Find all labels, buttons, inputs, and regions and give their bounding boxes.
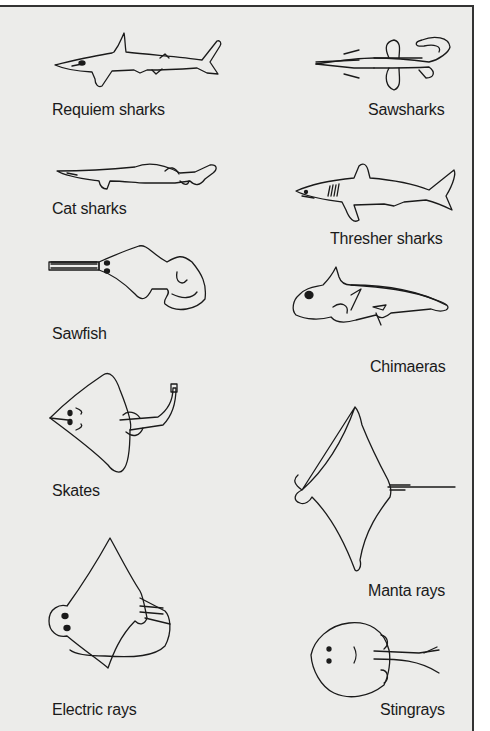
sawfish-illustration — [47, 244, 217, 319]
sawshark-illustration — [314, 32, 459, 94]
label-thresher-sharks: Thresher sharks — [330, 230, 443, 248]
label-sawfish: Sawfish — [52, 325, 107, 343]
skate-illustration — [48, 370, 183, 475]
chimaera-illustration — [291, 265, 456, 335]
label-chimaeras: Chimaeras — [370, 358, 446, 376]
electric-ray-illustration — [45, 536, 185, 671]
label-requiem-sharks: Requiem sharks — [52, 101, 165, 119]
thresher-shark-illustration — [294, 158, 459, 228]
label-skates: Skates — [52, 482, 100, 500]
stingray-illustration — [309, 615, 459, 700]
label-sawsharks: Sawsharks — [368, 101, 444, 119]
label-manta-rays: Manta rays — [368, 582, 445, 600]
label-stingrays: Stingrays — [380, 701, 445, 719]
requiem-shark-illustration — [52, 28, 222, 93]
manta-ray-illustration — [290, 405, 460, 575]
cat-shark-illustration — [55, 161, 220, 191]
label-electric-rays: Electric rays — [52, 701, 137, 719]
label-cat-sharks: Cat sharks — [52, 200, 126, 218]
